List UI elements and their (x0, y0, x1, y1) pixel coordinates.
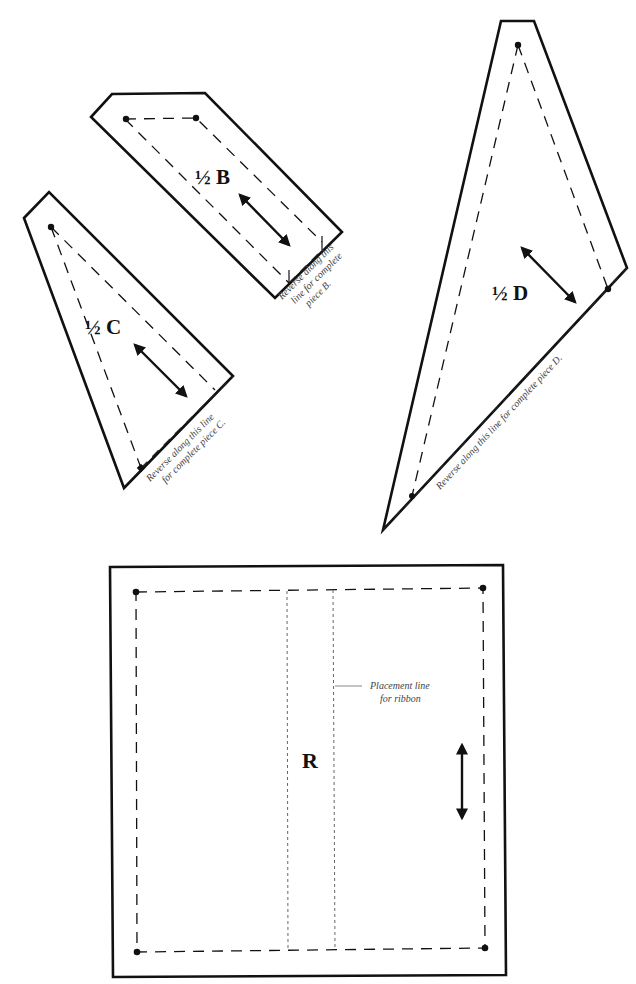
piece-c-note-line-1: Reverse along this line (143, 411, 216, 484)
piece-d-label: ½ D (492, 281, 528, 305)
pattern-sheet: ½ B Reverse along this line for complete… (0, 0, 636, 984)
piece-b-corner-dot (193, 115, 199, 121)
piece-d-seam-line-right (518, 45, 608, 289)
piece-d-corner-dot (409, 493, 415, 499)
pattern-piece-c: ½ C Reverse along this line for complete… (24, 192, 233, 493)
piece-d-grainline-arrow-icon (522, 248, 575, 302)
piece-r-label: R (302, 748, 319, 773)
pattern-piece-b: ½ B Reverse along this line for complete… (91, 93, 353, 319)
piece-c-seam-line-right (51, 227, 215, 390)
piece-r-ribbon-placement-line-left (287, 591, 288, 950)
piece-r-ribbon-placement-line-right (333, 590, 335, 950)
piece-b-seam-line-left (125, 119, 289, 283)
piece-r-note-line-2: for ribbon (380, 693, 421, 704)
piece-d-seam-line-left (412, 45, 518, 496)
piece-r-note-line-1: Placement line (369, 680, 430, 691)
piece-d-point-dot (515, 42, 521, 48)
piece-c-label: ½ C (85, 315, 121, 339)
piece-b-label: ½ B (195, 165, 230, 189)
piece-c-grainline-arrow-icon (135, 345, 186, 396)
piece-d-corner-dot (605, 286, 611, 292)
piece-r-corner-dot (134, 949, 141, 956)
pattern-piece-d: ½ D Reverse along this line for complete… (383, 21, 627, 530)
piece-b-corner-dot (123, 116, 129, 122)
piece-d-fold-note: Reverse along this line for complete pie… (433, 352, 564, 492)
piece-c-seam-line (51, 227, 141, 468)
piece-d-fold-line (383, 268, 627, 530)
piece-r-corner-dot (133, 589, 140, 596)
piece-c-point-dot (48, 224, 54, 230)
piece-c-fold-note: Reverse along this line for complete pie… (143, 408, 228, 493)
piece-d-cutting-line (383, 21, 627, 530)
piece-r-corner-dot (480, 585, 487, 592)
piece-r-corner-dot (482, 945, 489, 952)
piece-d-note-line-1: Reverse along this line for complete pie… (433, 352, 564, 492)
pattern-piece-r: Placement line for ribbon R (110, 565, 506, 977)
